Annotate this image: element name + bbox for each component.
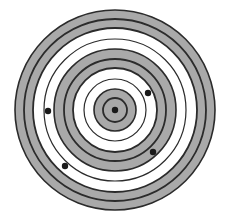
- dot-1: [145, 90, 151, 96]
- dot-4: [45, 108, 51, 114]
- dot-3: [62, 163, 68, 169]
- dot-2: [150, 149, 156, 155]
- center-dot: [112, 107, 118, 113]
- concentric-target-diagram: [0, 0, 228, 220]
